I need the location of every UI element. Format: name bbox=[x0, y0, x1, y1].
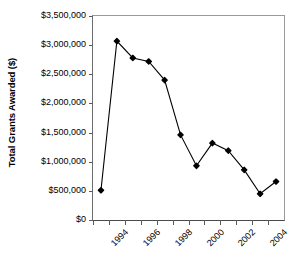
y-tick-label: $1,500,000 bbox=[41, 127, 86, 137]
x-axis-tick-labels: 199419961998200020022004 bbox=[92, 219, 292, 262]
plot-area bbox=[92, 15, 285, 221]
data-point-marker bbox=[178, 132, 183, 137]
grants-line-chart: Total Grants Awarded ($) $0$500,000$1,00… bbox=[0, 0, 299, 262]
x-tick-label: 1998 bbox=[173, 227, 194, 248]
y-tick-mark bbox=[89, 191, 93, 192]
y-tick-label: $3,000,000 bbox=[41, 39, 86, 49]
x-tick-label: 1994 bbox=[109, 227, 130, 248]
y-tick-mark bbox=[89, 133, 93, 134]
x-tick-label: 2000 bbox=[204, 227, 225, 248]
y-tick-label: $2,000,000 bbox=[41, 97, 86, 107]
series-line bbox=[101, 41, 276, 194]
y-tick-label: $3,500,000 bbox=[41, 10, 86, 20]
y-tick-mark bbox=[89, 16, 93, 17]
data-series-svg bbox=[93, 16, 284, 220]
y-tick-label: $0 bbox=[76, 214, 86, 224]
y-tick-label: $1,000,000 bbox=[41, 156, 86, 166]
y-axis-title: Total Grants Awarded ($) bbox=[0, 0, 24, 225]
x-tick-label: 2002 bbox=[236, 227, 257, 248]
y-tick-label: $500,000 bbox=[48, 185, 86, 195]
y-tick-mark bbox=[89, 103, 93, 104]
series-markers bbox=[98, 38, 278, 196]
y-tick-mark bbox=[89, 162, 93, 163]
y-axis-title-label: Total Grants Awarded ($) bbox=[7, 58, 18, 167]
x-tick-label: 1996 bbox=[141, 227, 162, 248]
y-tick-mark bbox=[89, 45, 93, 46]
data-point-marker bbox=[98, 188, 103, 193]
y-tick-mark bbox=[89, 74, 93, 75]
y-tick-label: $2,500,000 bbox=[41, 68, 86, 78]
y-axis-tick-labels: $0$500,000$1,000,000$1,500,000$2,000,000… bbox=[22, 0, 90, 225]
x-tick-label: 2004 bbox=[268, 227, 289, 248]
